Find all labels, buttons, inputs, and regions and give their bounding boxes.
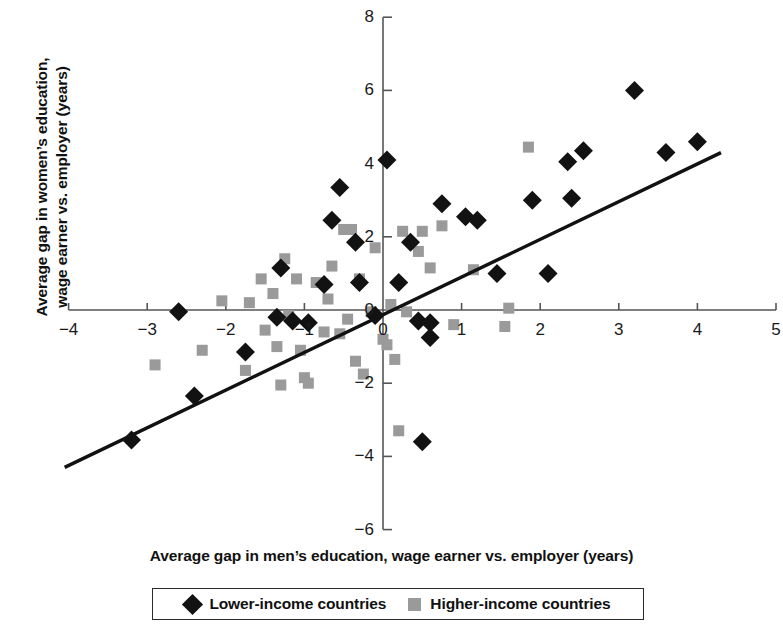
data-point-square — [216, 295, 227, 306]
data-point-square — [319, 326, 330, 337]
data-point-square — [342, 314, 353, 325]
x-axis-tick-label: 0 — [378, 320, 387, 340]
x-axis-tick-label: 4 — [693, 320, 702, 340]
data-point-square — [256, 273, 267, 284]
y-axis-tick-label: 6 — [365, 80, 374, 100]
data-point-diamond — [421, 328, 440, 347]
data-point-diamond — [330, 178, 349, 197]
data-point-diamond — [688, 132, 707, 151]
data-point-square — [244, 297, 255, 308]
legend-label-lower-income: Lower-income countries — [209, 595, 386, 613]
data-point-square — [271, 341, 282, 352]
y-axis-tick-label: 8 — [365, 7, 374, 27]
y-axis-tick-label: 4 — [365, 154, 374, 174]
plot-canvas — [0, 0, 783, 545]
data-point-diamond — [169, 302, 188, 321]
data-point-square — [150, 359, 161, 370]
data-point-square — [303, 378, 314, 389]
chart-legend: Lower-income countries Higher-income cou… — [152, 588, 644, 620]
legend-item-higher-income: Higher-income countries — [408, 595, 610, 613]
x-axis-tick-label: −2 — [216, 320, 235, 340]
data-point-square — [393, 425, 404, 436]
data-point-square — [322, 294, 333, 305]
data-point-diamond — [539, 264, 558, 283]
plot-area: −4−3−2−1012345−6−4−202468 — [0, 0, 783, 545]
data-point-square — [499, 321, 510, 332]
data-point-square — [381, 339, 392, 350]
data-point-diamond — [346, 233, 365, 252]
y-axis-tick-label: −2 — [355, 373, 374, 393]
data-point-square — [436, 220, 447, 231]
data-point-diamond — [562, 189, 581, 208]
x-axis-title: Average gap in men’s education, wage ear… — [0, 547, 783, 565]
data-point-square — [523, 142, 534, 153]
square-marker-icon — [408, 598, 421, 611]
legend-label-higher-income: Higher-income countries — [430, 595, 610, 613]
data-point-diamond — [574, 141, 593, 160]
data-point-square — [417, 226, 428, 237]
data-point-square — [240, 365, 251, 376]
data-point-square — [291, 273, 302, 284]
y-axis-tick-label: −4 — [355, 446, 374, 466]
data-point-square — [401, 306, 412, 317]
data-point-square — [503, 303, 514, 314]
diamond-marker-icon — [182, 593, 203, 614]
data-point-diamond — [350, 273, 369, 292]
data-point-diamond — [625, 81, 644, 100]
data-point-square — [197, 345, 208, 356]
x-axis-tick-label: 2 — [535, 320, 544, 340]
data-point-square — [397, 226, 408, 237]
x-axis-tick-label: 3 — [614, 320, 623, 340]
data-point-diamond — [523, 191, 542, 210]
y-axis-tick-label: 0 — [365, 300, 374, 320]
legend-item-lower-income: Lower-income countries — [185, 595, 386, 613]
x-axis-tick-label: −4 — [59, 320, 78, 340]
data-point-square — [267, 288, 278, 299]
data-point-square — [425, 262, 436, 273]
series-lower-income-countries — [122, 81, 707, 451]
data-point-diamond — [432, 194, 451, 213]
scatter-chart-figure: Average gap in women’s education, wage e… — [0, 0, 783, 624]
x-axis-tick-label: 5 — [771, 320, 780, 340]
data-point-diamond — [389, 273, 408, 292]
data-point-square — [275, 380, 286, 391]
data-point-diamond — [558, 152, 577, 171]
x-axis-tick-label: −1 — [295, 320, 314, 340]
data-point-square — [326, 261, 337, 272]
x-axis-tick-label: −3 — [137, 320, 156, 340]
data-point-square — [389, 354, 400, 365]
x-axis-tick-label: 1 — [457, 320, 466, 340]
data-point-diamond — [413, 432, 432, 451]
data-point-diamond — [487, 264, 506, 283]
y-axis-tick-label: −6 — [355, 520, 374, 540]
data-point-diamond — [656, 143, 675, 162]
data-point-square — [260, 325, 271, 336]
data-point-square — [350, 356, 361, 367]
y-axis-tick-label: 2 — [365, 227, 374, 247]
data-point-diamond — [377, 150, 396, 169]
data-point-diamond — [236, 343, 255, 362]
